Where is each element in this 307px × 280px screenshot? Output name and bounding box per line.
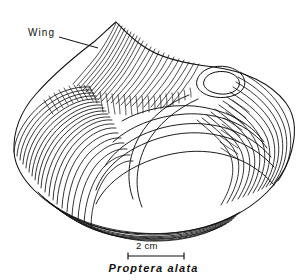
- umbo: [197, 66, 245, 97]
- wing-leader-line: [59, 37, 98, 48]
- scale-bar-label: 2 cm: [136, 240, 158, 251]
- species-caption: Proptera alata: [0, 262, 307, 274]
- shell-outline: [14, 22, 294, 234]
- shell-drawing: [0, 0, 307, 280]
- shell-illustration-figure: Wing 2 cm Proptera alata: [0, 0, 307, 280]
- wing-label: Wing: [28, 27, 55, 38]
- wing-hatching: [73, 23, 199, 107]
- left-flank-arcs: [14, 87, 133, 227]
- scale-bar: [128, 253, 184, 260]
